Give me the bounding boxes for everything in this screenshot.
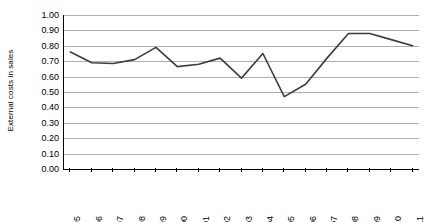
y-axis-title: External costs in sales bbox=[0, 0, 22, 180]
y-tick-label: 0.60 bbox=[41, 72, 59, 81]
y-tick-label: 0.90 bbox=[41, 26, 59, 35]
x-tick-label: 1998 bbox=[138, 216, 147, 222]
x-tick-mark bbox=[412, 168, 413, 172]
x-tick-mark bbox=[134, 168, 135, 172]
x-tick-mark bbox=[112, 168, 113, 172]
y-tick-label: 0.80 bbox=[41, 41, 59, 50]
y-tick-label: 0.00 bbox=[41, 165, 59, 174]
x-tick-mark bbox=[369, 168, 370, 172]
y-tick-label: 0.30 bbox=[41, 118, 59, 127]
x-tick-label: 2002 bbox=[223, 216, 232, 222]
x-tick-label: 2001 bbox=[202, 216, 211, 222]
x-tick-mark bbox=[155, 168, 156, 172]
x-tick-mark bbox=[326, 168, 327, 172]
x-tick-mark bbox=[91, 168, 92, 172]
x-tick-label: 2005 bbox=[287, 216, 296, 222]
x-tick-label: 2006 bbox=[309, 216, 318, 222]
x-tick-mark bbox=[347, 168, 348, 172]
x-tick-label: 1996 bbox=[95, 216, 104, 222]
x-tick-mark bbox=[390, 168, 391, 172]
x-tick-label: 1995 bbox=[73, 216, 82, 222]
x-tick-mark bbox=[305, 168, 306, 172]
y-tick-label: 0.10 bbox=[41, 149, 59, 158]
x-tick-mark bbox=[262, 168, 263, 172]
x-tick-mark bbox=[283, 168, 284, 172]
x-axis-tick-labels: 1995199619971998199920002001200220032004… bbox=[63, 172, 418, 220]
x-tick-label: 2004 bbox=[266, 216, 275, 222]
x-tick-label: 1997 bbox=[116, 216, 125, 222]
x-tick-mark bbox=[176, 168, 177, 172]
y-tick-label: 0.40 bbox=[41, 103, 59, 112]
y-axis-tick-labels: 0.000.100.200.300.400.500.600.700.800.90… bbox=[22, 0, 62, 180]
x-tick-mark bbox=[198, 168, 199, 172]
series-line bbox=[64, 15, 419, 169]
x-tick-label: 2008 bbox=[351, 216, 360, 222]
x-tick-label: 1999 bbox=[159, 216, 168, 222]
line-chart: External costs in sales 0.000.100.200.30… bbox=[0, 0, 430, 222]
y-tick-label: 0.50 bbox=[41, 88, 59, 97]
y-tick-label: 1.00 bbox=[41, 11, 59, 20]
x-tick-mark bbox=[241, 168, 242, 172]
series-polyline bbox=[70, 33, 412, 96]
plot-area bbox=[63, 15, 419, 170]
x-tick-label: 2009 bbox=[373, 216, 382, 222]
x-tick-label: 2000 bbox=[180, 216, 189, 222]
x-tick-label: 2007 bbox=[330, 216, 339, 222]
y-tick-label: 0.20 bbox=[41, 134, 59, 143]
x-tick-mark bbox=[219, 168, 220, 172]
y-axis-title-label: External costs in sales bbox=[7, 49, 16, 131]
y-tick-label: 0.70 bbox=[41, 57, 59, 66]
x-tick-label: 2011 bbox=[416, 216, 425, 222]
x-tick-label: 2003 bbox=[245, 216, 254, 222]
x-tick-mark bbox=[69, 168, 70, 172]
x-tick-label: 2010 bbox=[394, 216, 403, 222]
